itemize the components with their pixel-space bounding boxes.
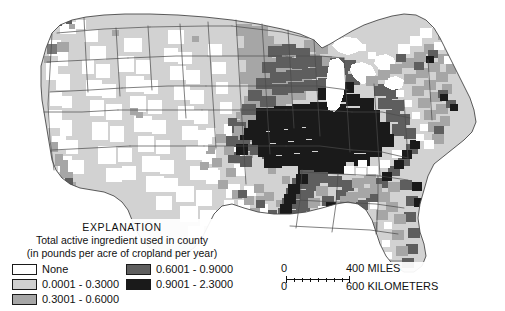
- scale-miles-caption: 400 MILES: [346, 262, 400, 275]
- legend-swatch-0901-2300: [126, 279, 151, 290]
- map-legend: EXPLANATION Total active ingredient used…: [8, 221, 236, 308]
- legend-swatch-0601-0900: [126, 264, 151, 275]
- legend-column-right: 0.6001 - 0.9000 0.9001 - 2.3000: [126, 262, 233, 292]
- legend-title: EXPLANATION: [8, 221, 236, 234]
- scale-row-miles: 0 400 MILES: [278, 262, 488, 277]
- legend-label-0301-0600: 0.3001 - 0.6000: [42, 294, 119, 305]
- scale-miles-zero: 0: [281, 262, 287, 275]
- legend-item-0901-2300: 0.9001 - 2.3000: [126, 277, 233, 292]
- legend-label-0601-0900: 0.6001 - 0.9000: [156, 264, 233, 275]
- legend-class-list: None 0.0001 - 0.3000 0.3001 - 0.6000 0.6…: [8, 262, 236, 308]
- legend-label-0901-2300: 0.9001 - 2.3000: [156, 279, 233, 290]
- legend-subtitle-line-2: (in pounds per acre of cropland per year…: [8, 247, 236, 260]
- legend-item-none: None: [12, 262, 119, 277]
- legend-swatch-none: [12, 264, 37, 275]
- scale-km-caption: 600 KILOMETERS: [346, 280, 438, 293]
- legend-item-0601-0900: 0.6001 - 0.9000: [126, 262, 233, 277]
- legend-item-0301-0600: 0.3001 - 0.6000: [12, 292, 119, 307]
- scale-km-zero: 0: [281, 280, 287, 293]
- legend-subtitle-line-1: Total active ingredient used in county: [8, 234, 236, 247]
- legend-column-left: None 0.0001 - 0.3000 0.3001 - 0.6000: [12, 262, 119, 307]
- legend-label-none: None: [42, 264, 68, 275]
- legend-swatch-0301-0600: [12, 294, 37, 305]
- map-scale-bars: 0 400 MILES 0 600 KILOMETERS: [278, 262, 488, 306]
- map-figure: EXPLANATION Total active ingredient used…: [0, 0, 505, 311]
- legend-label-0001-0300: 0.0001 - 0.3000: [42, 279, 119, 290]
- legend-item-0001-0300: 0.0001 - 0.3000: [12, 277, 119, 292]
- scale-row-kilometers: 0 600 KILOMETERS: [278, 280, 488, 295]
- legend-swatch-0001-0300: [12, 279, 37, 290]
